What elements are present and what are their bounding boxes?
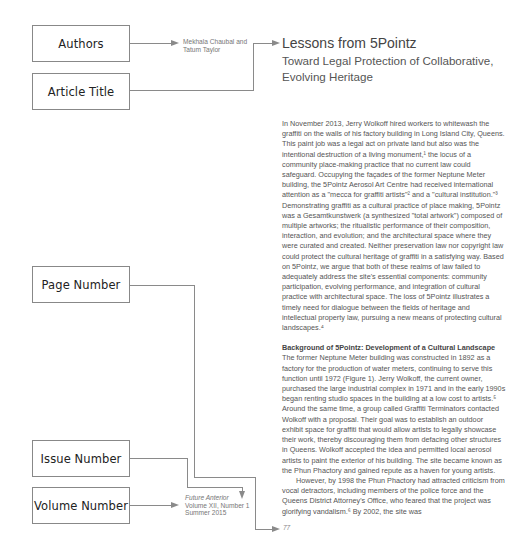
page-connector-line-v1	[194, 285, 195, 478]
authors-label-box: Authors	[32, 25, 130, 62]
page-number-label-box: Page Number	[32, 266, 130, 303]
article-subtitle: Toward Legal Protection of Collaborative…	[282, 53, 502, 85]
authors-text: Mekhala Chaubal and Tatum Taylor	[183, 38, 247, 53]
article-title-label: Article Title	[48, 85, 115, 99]
volume-number-label: Volume Number	[34, 499, 128, 513]
journal-volume-issue: Volume XII, Number 1	[185, 502, 250, 510]
article-body: In November 2013, Jerry Wolkoff hired wo…	[282, 119, 506, 517]
article-title: Lessons from 5Pointz	[282, 35, 417, 51]
title-connector-line-h2	[253, 43, 273, 44]
page-connector-line-v2	[255, 477, 256, 530]
authors-arrow-icon	[171, 40, 179, 46]
article-title-label-box: Article Title	[32, 73, 130, 110]
issue-connector-line-v1	[187, 458, 188, 488]
authors-line-2: Tatum Taylor	[183, 46, 247, 54]
section-heading: Background of 5Pointz: Development of a …	[282, 343, 506, 353]
authors-connector-line	[130, 43, 172, 44]
title-connector-line-h1	[130, 90, 254, 91]
volume-number-label-box: Volume Number	[32, 487, 130, 524]
volume-connector-line	[130, 505, 172, 506]
journal-name: Future Anterior	[185, 494, 250, 502]
authors-line-1: Mekhala Chaubal and	[183, 38, 247, 46]
page-connector-line-h1	[130, 285, 195, 286]
issue-connector-line-h1	[130, 458, 188, 459]
issue-number-label: Issue Number	[41, 452, 122, 466]
page-number: 77	[283, 524, 290, 531]
authors-label: Authors	[58, 37, 103, 51]
title-arrow-icon	[272, 40, 280, 46]
page-number-label: Page Number	[42, 278, 121, 292]
page-connector-line-h2	[194, 477, 256, 478]
issue-number-label-box: Issue Number	[32, 440, 130, 477]
journal-season: Summer 2015	[185, 509, 250, 517]
title-connector-line-v	[253, 43, 254, 91]
volume-arrow-icon	[171, 502, 179, 508]
page-arrow-icon	[272, 526, 280, 532]
journal-info: Future Anterior Volume XII, Number 1 Sum…	[185, 494, 250, 517]
paragraph-3: However, by 1998 the Phun Phactory had a…	[282, 476, 506, 517]
paragraph-2: The former Neptune Meter building was co…	[282, 353, 506, 475]
page-connector-line-h3	[255, 529, 273, 530]
paragraph-1: In November 2013, Jerry Wolkoff hired wo…	[282, 119, 506, 333]
issue-connector-line-h2	[187, 487, 243, 488]
